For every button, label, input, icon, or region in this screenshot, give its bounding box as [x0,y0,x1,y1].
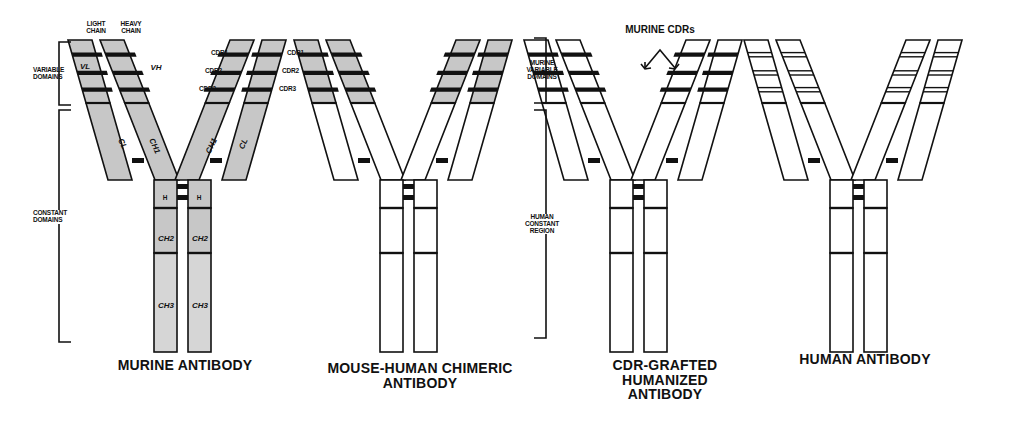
variable-domains-label: VARIABLEDOMAINS [33,67,73,81]
ch2-label-right: CH2 [189,235,211,243]
ch2-label-left: CH2 [155,235,177,243]
hinge-label-right: H [194,195,204,202]
murine-cdrs-label: MURINE CDRs [620,25,700,36]
vh-label: VH [149,64,163,72]
cdr1-label-left: CDR1 [200,50,228,57]
title-murine-antibody: MURINE ANTIBODY [100,358,270,373]
murine-variable-domains-label: MURINEVARIABLEDOMAINS [522,60,562,80]
murine-cdrs-arrows-icon [641,50,679,69]
ch3-label-left: CH3 [155,302,177,310]
ch3-label-right: CH3 [189,302,211,310]
cdr1-label-right: CDR1 [287,50,315,57]
constant-domains-label: CONSTANTDOMAINS [33,210,73,224]
vl-label: VL [78,63,92,71]
antibody-murine [68,40,286,352]
human-constant-region-label: HUMANCONSTANTREGION [522,214,562,234]
cdr2-label-left: CDR2 [194,68,222,75]
title-human-antibody: HUMAN ANTIBODY [790,352,940,367]
cdr3-label-left: CDR3 [188,86,216,93]
heavy-chain-label: HEAVYCHAIN [116,21,146,35]
antibody-chimeric [294,40,512,352]
title-cdr-grafted-antibody: CDR-GRAFTEDHUMANIZEDANTIBODY [600,358,730,402]
bracket [59,110,71,342]
light-chain-label: LIGHTCHAIN [81,21,111,35]
cdr2-label-right: CDR2 [282,68,310,75]
title-chimeric-antibody: MOUSE-HUMAN CHIMERICANTIBODY [320,361,520,390]
antibody-cdr-grafted [524,40,742,352]
hinge-label-left: H [160,195,170,202]
antibody-human [744,40,962,352]
cdr3-label-right: CDR3 [279,86,307,93]
